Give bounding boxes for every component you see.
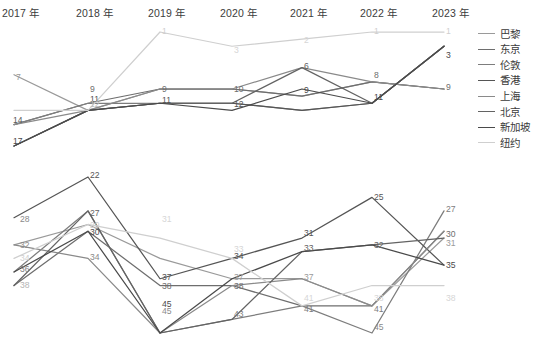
legend-item-4[interactable]: 上海	[478, 88, 541, 104]
point-value-label: 43	[234, 309, 244, 319]
point-value-label: 34	[234, 251, 244, 261]
point-value-label: 33	[304, 243, 314, 253]
point-value-label: 38	[446, 293, 456, 303]
point-value-label: 11	[374, 92, 383, 102]
bottom-chart-point-labels: 2832343638222729303431373845453334373843…	[20, 170, 456, 332]
legend-line-icon	[478, 80, 495, 81]
point-value-label: 38	[162, 281, 172, 291]
point-value-label: 9	[162, 84, 167, 94]
legend-line-icon	[478, 142, 495, 143]
point-value-label: 9	[446, 82, 451, 92]
point-value-label: 17	[13, 136, 23, 146]
legend-label: 巴黎	[500, 29, 520, 40]
point-value-label: 27	[90, 208, 100, 218]
bottom-line-chart: 2832343638222729303431373845453334373843…	[0, 165, 470, 343]
point-value-label: 41	[374, 304, 384, 314]
point-value-label: 6	[304, 61, 309, 71]
point-value-label: 38	[20, 280, 30, 290]
legend-item-2[interactable]: 伦敦	[478, 57, 541, 73]
legend-label: 纽约	[500, 138, 520, 149]
point-value-label: 34	[90, 252, 100, 262]
series-line-2[interactable]	[14, 46, 444, 124]
point-value-label: 10	[234, 84, 244, 94]
legend-line-icon	[478, 127, 495, 128]
point-value-label: 41	[304, 304, 314, 314]
point-value-label: 3	[446, 50, 451, 60]
legend-label: 东京	[500, 44, 520, 55]
point-value-label: 7	[16, 72, 21, 82]
point-value-label: 1	[374, 26, 379, 36]
legend-item-3[interactable]: 香港	[478, 73, 541, 89]
point-value-label: 34	[20, 253, 30, 263]
legend-label: 上海	[500, 91, 520, 102]
point-value-label: 45	[374, 322, 384, 332]
legend-item-1[interactable]: 东京	[478, 42, 541, 58]
legend-label: 伦敦	[500, 60, 520, 71]
point-value-label: 3	[234, 45, 239, 55]
legend-label: 新加坡	[500, 122, 530, 133]
point-value-label: 14	[13, 115, 23, 125]
point-value-label: 41	[304, 293, 314, 303]
point-value-label: 1	[446, 26, 451, 36]
legend-line-icon	[478, 49, 495, 50]
x-axis-label: 2020 年	[220, 5, 257, 20]
point-value-label: 32	[20, 240, 30, 250]
point-value-label: 31	[446, 238, 456, 248]
point-value-label: 8	[374, 70, 379, 80]
x-axis-label: 2018 年	[76, 5, 113, 20]
legend-label: 香港	[500, 75, 520, 86]
point-value-label: 25	[374, 192, 384, 202]
point-value-label: 36	[20, 264, 30, 274]
legend-line-icon	[478, 96, 495, 97]
point-value-label: 31	[304, 228, 314, 238]
point-value-label: 2	[304, 35, 309, 45]
legend-item-5[interactable]: 北京	[478, 104, 541, 120]
point-value-label: 32	[374, 240, 384, 250]
top-chart-lines	[14, 32, 444, 146]
point-value-label: 12	[90, 99, 100, 109]
legend-item-7[interactable]: 纽约	[478, 135, 541, 151]
point-value-label: 9	[304, 85, 309, 95]
x-axis-labels: 2017 年2018 年2019 年2020 年2021 年2022 年2023…	[0, 0, 470, 24]
point-value-label: 1	[162, 26, 167, 36]
point-value-label: 38	[234, 281, 244, 291]
legend-line-icon	[478, 33, 495, 34]
legend-item-0[interactable]: 巴黎	[478, 26, 541, 42]
point-value-label: 12	[234, 99, 244, 109]
point-value-label: 9	[90, 84, 95, 94]
point-value-label: 31	[162, 214, 172, 224]
point-value-label: 30	[90, 227, 100, 237]
point-value-label: 45	[162, 306, 172, 316]
top-chart-point-labels: 71417911121911310122691811139	[13, 26, 451, 146]
point-value-label: 35	[446, 260, 456, 270]
x-axis-label: 2023 年	[432, 5, 469, 20]
legend-label: 北京	[500, 107, 520, 118]
point-value-label: 11	[162, 95, 171, 105]
point-value-label: 27	[446, 204, 456, 214]
legend-line-icon	[478, 111, 495, 112]
point-value-label: 37	[304, 272, 314, 282]
point-value-label: 38	[374, 293, 384, 303]
x-axis-label: 2019 年	[148, 5, 185, 20]
x-axis-label: 2022 年	[360, 5, 397, 20]
legend-line-icon	[478, 64, 495, 65]
point-value-label: 28	[20, 214, 30, 224]
point-value-label: 22	[90, 170, 100, 180]
chart-page: 2017 年2018 年2019 年2020 年2021 年2022 年2023…	[0, 0, 541, 349]
legend-item-6[interactable]: 新加坡	[478, 120, 541, 136]
x-axis-label: 2017 年	[2, 5, 39, 20]
chart-legend: 巴黎东京伦敦香港上海北京新加坡纽约	[478, 26, 541, 151]
top-line-chart: 71417911121911310122691811139	[0, 22, 470, 147]
x-axis-label: 2021 年	[290, 5, 327, 20]
